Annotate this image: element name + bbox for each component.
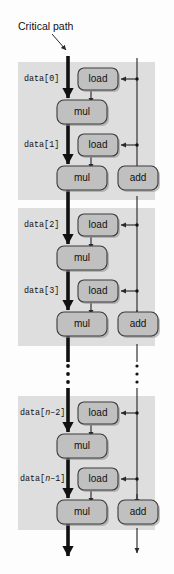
node-load-3[interactable]: load [78, 280, 120, 304]
node-add-1[interactable]: add [118, 166, 160, 192]
ellipsis-right-dot-1 [135, 364, 138, 367]
critical-path-annotation-label: Critical path [18, 20, 74, 32]
node-mul-n-2[interactable]: mul [57, 434, 109, 460]
node-mul-n-2-label: mul [74, 440, 90, 451]
diagram-canvas: load mul load mul add loa [0, 0, 174, 574]
node-mul-2-label: mul [74, 252, 90, 263]
node-add-n-1-label: add [130, 506, 147, 517]
node-mul-1[interactable]: mul [57, 166, 109, 192]
node-add-3[interactable]: add [118, 312, 160, 338]
node-load-0[interactable]: load [78, 68, 120, 92]
node-load-n-2-label: load [89, 407, 108, 418]
ellipsis-right-dot-3 [135, 380, 138, 383]
node-load-3-label: load [89, 285, 108, 296]
band-label-data-0: data[0] [24, 74, 59, 84]
junction-dot-load-n-2 [135, 411, 138, 414]
ellipsis-left-dot-1 [66, 364, 70, 368]
junction-dot-load-1 [135, 143, 138, 146]
band-label-data-3: data[3] [24, 286, 59, 296]
node-mul-n-1[interactable]: mul [57, 500, 109, 526]
node-mul-3[interactable]: mul [57, 312, 109, 338]
band-label-data-2: data[2] [24, 220, 59, 230]
band-label-data-1: data[1] [24, 140, 59, 150]
node-load-n-2[interactable]: load [78, 402, 120, 426]
critical-path-annotation-leader [52, 34, 66, 50]
dependency-graph-diagram: load mul load mul add loa [0, 0, 174, 574]
node-load-0-label: load [89, 73, 108, 84]
junction-dot-load-0 [135, 77, 138, 80]
node-load-1-label: load [89, 139, 108, 150]
node-load-n-1[interactable]: load [78, 468, 120, 492]
node-mul-n-1-label: mul [74, 506, 90, 517]
node-load-2[interactable]: load [78, 214, 120, 238]
node-mul-0[interactable]: mul [57, 100, 109, 126]
node-load-1[interactable]: load [78, 134, 120, 158]
ellipsis-right [135, 364, 138, 383]
node-mul-2[interactable]: mul [57, 246, 109, 272]
node-mul-3-label: mul [74, 318, 90, 329]
critical-path-annotation: Critical path [18, 20, 74, 50]
ellipsis-left-dot-2 [66, 372, 70, 376]
junction-dot-load-2 [135, 223, 138, 226]
ellipsis-left-dot-3 [66, 380, 70, 384]
node-load-2-label: load [89, 219, 108, 230]
node-load-n-1-label: load [89, 473, 108, 484]
junction-dot-load-3 [135, 289, 138, 292]
node-add-3-label: add [130, 318, 147, 329]
node-mul-0-label: mul [74, 106, 90, 117]
band-label-data-n-1: data[n–1] [20, 474, 65, 484]
ellipsis-right-dot-2 [135, 372, 138, 375]
node-add-n-1[interactable]: add [118, 500, 160, 526]
ellipsis-left [66, 364, 70, 384]
band-label-data-n-2: data[n–2] [20, 408, 65, 418]
node-add-1-label: add [130, 172, 147, 183]
node-mul-1-label: mul [74, 172, 90, 183]
junction-dot-load-n-1 [135, 477, 138, 480]
